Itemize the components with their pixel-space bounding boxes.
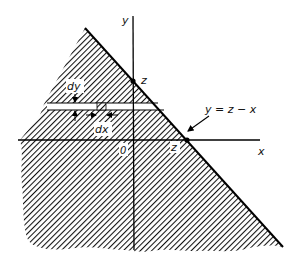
x-intercept-dot — [184, 137, 189, 142]
dy-label: dy — [67, 80, 81, 93]
x-axis-label: x — [257, 145, 265, 158]
element-dx-dy — [97, 103, 106, 110]
origin-label: 0 — [120, 145, 126, 156]
dx-label: dx — [95, 123, 109, 136]
label-pointer-arrow-icon — [188, 116, 209, 131]
x-intercept-label: z — [170, 141, 177, 154]
y-intercept-label: z — [140, 74, 147, 87]
boundary-line-label: y = z − x — [204, 103, 257, 116]
diagram-canvas: y x z z 0 dy dx y = z − x — [0, 0, 300, 268]
y-axis-label: y — [121, 14, 129, 27]
y-intercept-dot — [130, 78, 135, 83]
